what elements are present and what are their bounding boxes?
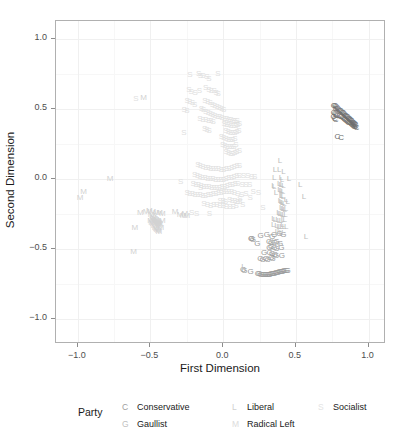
data-point-l: L <box>304 233 308 241</box>
data-point-s: S <box>240 201 245 209</box>
data-point-s: S <box>181 129 186 137</box>
scatter-plot: Second Dimension −1.0−0.50.00.51.0 −1.0−… <box>0 0 405 360</box>
data-point-l: L <box>302 193 306 201</box>
x-axis-tick <box>77 343 78 347</box>
y-axis-tick <box>51 108 55 109</box>
gridline-vertical-minor <box>187 21 188 342</box>
y-axis-tick <box>51 38 55 39</box>
data-point-s: S <box>260 204 265 212</box>
data-point-l: L <box>298 181 302 189</box>
data-point-l: L <box>287 175 291 183</box>
gridline-vertical <box>296 21 297 342</box>
x-axis-tick-label: −1.0 <box>57 350 97 360</box>
data-point-s: S <box>207 127 212 135</box>
gridline-horizontal <box>56 39 384 40</box>
data-point-s: S <box>178 178 183 186</box>
gridline-horizontal-minor <box>56 214 384 215</box>
data-point-s: S <box>237 162 242 170</box>
data-point-s: S <box>194 210 199 218</box>
data-point-m: M <box>140 94 147 102</box>
x-axis-tick <box>295 343 296 347</box>
legend-label-radical-left[interactable]: Radical Left <box>247 419 295 429</box>
data-point-m: M <box>159 217 166 225</box>
gridline-vertical <box>150 21 151 342</box>
data-point-m: M <box>131 224 138 232</box>
x-axis-tick <box>368 343 369 347</box>
x-axis-title: First Dimension <box>55 362 385 374</box>
data-point-l: L <box>278 157 282 165</box>
y-axis-title: Second Dimension <box>2 0 18 360</box>
y-axis-tick <box>51 318 55 319</box>
data-point-s: S <box>207 210 212 218</box>
data-point-m: M <box>107 175 114 183</box>
data-point-c: C <box>353 124 359 132</box>
legend-key-gaullist[interactable]: G <box>122 419 129 429</box>
gridline-horizontal <box>56 249 384 250</box>
legend-key-socialist[interactable]: S <box>318 402 324 412</box>
x-axis-tick-label: 0.0 <box>202 350 242 360</box>
y-axis-tick-label: 0.5 <box>18 102 47 112</box>
data-point-g: G <box>279 252 285 260</box>
legend-label-conservative[interactable]: Conservative <box>137 402 190 412</box>
data-point-g: G <box>285 267 291 275</box>
data-point-s: S <box>215 70 220 78</box>
x-axis-tick-label: −0.5 <box>129 350 169 360</box>
data-point-s: S <box>216 90 221 98</box>
data-point-s: S <box>133 95 138 103</box>
data-point-s: S <box>248 194 253 202</box>
data-point-s: S <box>237 147 242 155</box>
y-axis-title-text: Second Dimension <box>4 132 16 229</box>
gridline-vertical-minor <box>260 21 261 342</box>
legend-key-conservative[interactable]: C <box>122 402 128 412</box>
legend-key-radical-left[interactable]: M <box>232 419 239 429</box>
x-axis-tick-label: 1.0 <box>348 350 388 360</box>
data-point-l: L <box>279 240 283 248</box>
data-point-l: L <box>281 229 285 237</box>
legend-label-gaullist[interactable]: Gaullist <box>137 419 167 429</box>
data-point-l: L <box>241 263 245 271</box>
y-axis-tick-label: 1.0 <box>18 32 47 42</box>
data-point-s: S <box>187 71 192 79</box>
gridline-vertical <box>78 21 79 342</box>
x-axis-title-text: First Dimension <box>180 362 260 374</box>
data-point-s: S <box>234 202 239 210</box>
gridline-horizontal <box>56 319 384 320</box>
data-point-m: M <box>130 248 137 256</box>
y-axis-tick-label: 0.0 <box>18 172 47 182</box>
data-point-s: S <box>211 118 216 126</box>
x-axis-tick <box>222 343 223 347</box>
data-point-s: S <box>206 75 211 83</box>
data-point-s: S <box>197 87 202 95</box>
y-axis-tick <box>51 178 55 179</box>
plot-panel: CCCCCCCCCCCCCCCCCCCCCCCCCCCCCCCCCCCCCCCC… <box>55 20 385 343</box>
data-point-g: G <box>254 240 260 248</box>
y-axis-tick-label: −0.5 <box>18 242 47 252</box>
data-point-s: S <box>252 173 257 181</box>
data-point-c: C <box>338 134 344 142</box>
data-point-s: S <box>198 184 203 192</box>
x-axis-tick-label: 0.5 <box>275 350 315 360</box>
y-axis-tick <box>51 248 55 249</box>
legend-label-liberal[interactable]: Liberal <box>247 402 274 412</box>
gridline-vertical <box>369 21 370 342</box>
data-point-m: M <box>158 224 165 232</box>
x-axis-tick <box>149 343 150 347</box>
y-axis-tick-label: −1.0 <box>18 312 47 322</box>
data-point-s: S <box>184 107 189 115</box>
gridline-vertical-minor <box>114 21 115 342</box>
data-point-g: G <box>247 268 253 276</box>
gridline-vertical-minor <box>332 21 333 342</box>
data-point-s: S <box>192 101 197 109</box>
data-point-g: G <box>249 235 255 243</box>
legend: Party CConservativeGGaullistLLiberalMRad… <box>0 392 405 436</box>
legend-key-liberal[interactable]: L <box>232 402 237 412</box>
data-point-s: S <box>256 189 261 197</box>
data-point-l: L <box>280 221 284 229</box>
gridline-horizontal-minor <box>56 284 384 285</box>
legend-title: Party <box>78 406 103 418</box>
legend-label-socialist[interactable]: Socialist <box>333 402 367 412</box>
data-point-m: M <box>77 194 84 202</box>
